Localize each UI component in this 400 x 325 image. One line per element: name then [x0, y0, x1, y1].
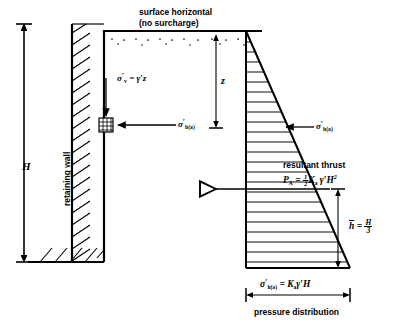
base-equals: =	[279, 279, 284, 289]
base-gamma: γ′	[296, 279, 303, 289]
horizontal-stress-label-right: σ′h(a)	[316, 121, 333, 131]
hbar-formula: h = H3	[349, 219, 372, 235]
thrust-P-subscript: A	[289, 180, 293, 186]
retaining-wall-label: retaining wall	[62, 152, 72, 206]
dimension-H	[16, 24, 32, 262]
sigma-v-subscript: v	[124, 78, 127, 84]
surface-label-line2: (no surcharge)	[139, 19, 199, 29]
base-K-subscript: a	[294, 284, 297, 290]
thrust-H-exponent: 2	[334, 174, 337, 180]
vertical-stress-label: σ′v = γ′z	[117, 73, 146, 83]
hbar-glyph: h	[349, 221, 354, 231]
hbar-equals: =	[357, 221, 362, 231]
horizontal-stress-label-left: σ′h(a)	[178, 119, 195, 129]
base-sigma-subscript: h(a)	[267, 284, 277, 290]
resultant-thrust-label: resultant thrust	[283, 161, 345, 171]
soil-element	[99, 118, 113, 132]
base-H: H	[303, 279, 310, 289]
sigma-ha-subscript: h(a)	[185, 124, 195, 130]
height-H-label: H	[22, 160, 31, 172]
sigma-ha-subscript-2: h(a)	[323, 126, 333, 132]
thrust-H: H	[326, 175, 333, 185]
thrust-P: P	[283, 175, 289, 185]
depth-z-label: z	[221, 75, 225, 86]
figure-retaining-wall-pressure: surface horizontal (no surcharge) retain…	[0, 0, 400, 325]
soil-stipple	[111, 38, 251, 46]
thrust-equals: =	[295, 175, 300, 185]
foundation-ground-hatch	[28, 248, 104, 262]
base-K: K	[287, 279, 293, 289]
base-stress-formula: σ′h(a) = Kaγ′H	[260, 279, 310, 289]
thrust-K: K	[308, 175, 314, 185]
surface-label-line1: surface horizontal	[139, 8, 212, 18]
hbar-fraction: H3	[364, 219, 372, 235]
pressure-distribution-caption: pressure distribution	[254, 308, 339, 318]
resultant-thrust-formula: PA = 12Ka γ′H2	[283, 174, 337, 188]
pressure-distribution-triangle	[239, 31, 350, 268]
dimension-base-sigma	[246, 288, 350, 302]
ground-surface-line	[104, 31, 262, 46]
thrust-K-subscript: a	[315, 180, 318, 186]
thrust-one-half: 12	[303, 174, 308, 188]
sigma-v-rhs: = γ′z	[129, 73, 146, 83]
retaining-wall	[72, 24, 104, 262]
